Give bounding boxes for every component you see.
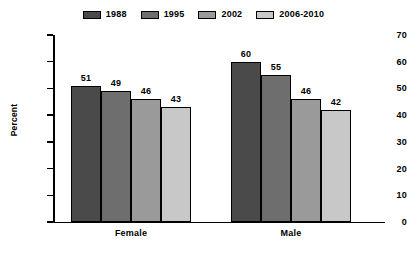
bar-value-label: 49 <box>111 78 121 88</box>
bar-value-label: 43 <box>171 94 181 104</box>
bar-male-2002[interactable]: 46 <box>291 35 321 222</box>
bar-value-label: 60 <box>241 49 251 59</box>
bar-rect[interactable] <box>291 99 321 222</box>
bar-value-label: 51 <box>81 73 91 83</box>
bar-rect[interactable] <box>161 107 191 222</box>
bar-female-2006-2010[interactable]: 43 <box>161 35 191 222</box>
legend-label-2002: 2002 <box>221 10 242 19</box>
legend-swatch-1995 <box>141 11 159 19</box>
bar-chart: 1988 1995 2002 2006-2010 Percent 0102030… <box>0 0 407 255</box>
x-axis-label-male: Male <box>281 228 302 238</box>
legend-label-2006-2010: 2006-2010 <box>279 10 324 19</box>
legend-item-1988: 1988 <box>83 10 127 19</box>
bar-male-2006-2010[interactable]: 42 <box>321 35 351 222</box>
legend-swatch-2002 <box>198 11 216 19</box>
bar-rect[interactable] <box>131 99 161 222</box>
bar-value-label: 46 <box>301 86 311 96</box>
y-axis-title: Percent <box>9 85 19 155</box>
bar-female-1995[interactable]: 49 <box>101 35 131 222</box>
chart-legend: 1988 1995 2002 2006-2010 <box>0 10 407 19</box>
bar-rect[interactable] <box>231 62 261 222</box>
bar-male-1988[interactable]: 60 <box>231 35 261 222</box>
bar-rect[interactable] <box>321 110 351 222</box>
bar-group-male: 60554642 <box>231 35 351 222</box>
x-axis-label-female: Female <box>115 228 147 238</box>
bar-rect[interactable] <box>261 75 291 222</box>
bar-male-1995[interactable]: 55 <box>261 35 291 222</box>
bar-female-1988[interactable]: 51 <box>71 35 101 222</box>
bar-rect[interactable] <box>101 91 131 222</box>
legend-item-1995: 1995 <box>141 10 185 19</box>
bar-value-label: 42 <box>331 97 341 107</box>
legend-item-2002: 2002 <box>198 10 242 19</box>
legend-swatch-2006-2010 <box>256 11 274 19</box>
bar-group-female: 51494643 <box>71 35 191 222</box>
legend-item-2006-2010: 2006-2010 <box>256 10 324 19</box>
bar-value-label: 55 <box>271 62 281 72</box>
bar-value-label: 46 <box>141 86 151 96</box>
bar-rect[interactable] <box>71 86 101 222</box>
plot-area: 5149464360554642 <box>53 35 385 222</box>
legend-swatch-1988 <box>83 11 101 19</box>
legend-label-1995: 1995 <box>164 10 185 19</box>
legend-label-1988: 1988 <box>106 10 127 19</box>
bar-female-2002[interactable]: 46 <box>131 35 161 222</box>
